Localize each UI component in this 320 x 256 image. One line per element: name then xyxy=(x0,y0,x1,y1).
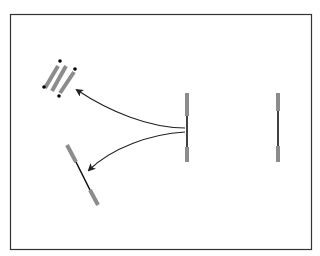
dot-top xyxy=(58,59,62,63)
dot-right xyxy=(73,67,77,71)
dot-left xyxy=(42,85,46,89)
diagram-canvas xyxy=(0,0,320,256)
diagram-frame xyxy=(11,15,312,250)
dot-bottom xyxy=(57,94,61,98)
